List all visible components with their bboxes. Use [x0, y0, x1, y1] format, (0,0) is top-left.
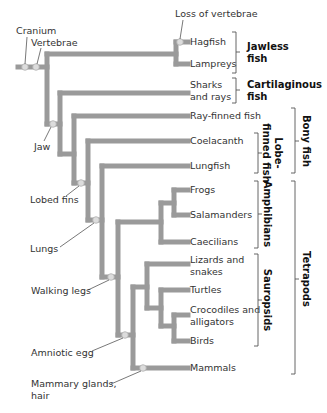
- node-walking-legs: [108, 274, 115, 281]
- taxon-mammals: Mammals: [190, 362, 236, 373]
- node-loss-of-vertebrae: [177, 39, 184, 46]
- taxon-birds: Birds: [190, 335, 214, 346]
- taxon-lampreys: Lampreys: [190, 58, 237, 69]
- node-jaw: [50, 121, 57, 128]
- node-amniotic-egg: [122, 332, 129, 339]
- node-lobed-fins: [78, 180, 85, 187]
- label-jaw: Jaw: [33, 141, 51, 152]
- taxon-lizards-2: snakes: [190, 266, 223, 277]
- node-mammary-glands: [140, 365, 147, 372]
- group-cartilaginous: Cartilaginous: [247, 79, 322, 90]
- taxon-sharks-2: and rays: [190, 91, 231, 102]
- taxon-hagfish: Hagfish: [190, 36, 226, 47]
- taxon-rayfinned: Ray-finned fish: [190, 110, 261, 121]
- label-mammary-glands-2: hair: [31, 390, 49, 401]
- taxon-lizards: Lizards and: [190, 254, 244, 265]
- group-lobefinned: Lobe-: [273, 137, 284, 168]
- group-cartilaginous-2: fish: [247, 91, 267, 102]
- branches: [18, 42, 188, 368]
- group-sauropsids: Sauropsids: [262, 269, 273, 332]
- cladogram: Cranium Vertebrae Loss of vertebrae Jaw …: [0, 0, 327, 413]
- group-tetrapods: Tetrapods: [301, 251, 312, 307]
- taxon-salamanders: Salamanders: [190, 209, 252, 220]
- group-bony-fish: Bony fish: [301, 115, 312, 167]
- taxon-crocodiles-2: alligators: [190, 316, 234, 327]
- node-vertebrae: [33, 64, 40, 71]
- label-lobed-fins: Lobed fins: [30, 194, 79, 205]
- label-amniotic-egg: Amniotic egg: [31, 347, 94, 358]
- taxon-crocodiles: Crocodiles and: [190, 304, 260, 315]
- label-cranium: Cranium: [16, 25, 56, 36]
- group-lobefinned-2: finned fish: [261, 123, 272, 183]
- taxon-lungfish: Lungfish: [190, 160, 230, 171]
- group-labels: Jawless fish Cartilaginous fish Lobe- fi…: [246, 41, 322, 331]
- label-mammary-glands: Mammary glands,: [31, 378, 116, 389]
- taxon-coelacanth: Coelacanth: [190, 135, 244, 146]
- label-loss-of-vertebrae: Loss of vertebrae: [175, 8, 258, 19]
- node-lungs: [93, 217, 100, 224]
- taxon-turtles: Turtles: [189, 284, 221, 295]
- group-jawless-2: fish: [247, 53, 267, 64]
- label-walking-legs: Walking legs: [31, 285, 91, 296]
- label-lungs: Lungs: [30, 243, 58, 254]
- node-cranium: [22, 64, 29, 71]
- taxon-frogs: Frogs: [190, 184, 215, 195]
- group-jawless: Jawless: [246, 41, 289, 52]
- label-vertebrae: Vertebrae: [31, 37, 78, 48]
- taxon-sharks: Sharks: [190, 79, 222, 90]
- taxon-caecilians: Caecilians: [190, 236, 238, 247]
- group-amphibians: Amphibians: [262, 181, 273, 247]
